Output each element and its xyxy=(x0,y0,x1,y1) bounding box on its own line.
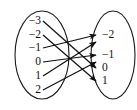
diagram-canvas: −3 −2 −1 0 1 2 −2 −1 0 1 xyxy=(0,0,137,110)
range-labels: −2 −1 0 1 xyxy=(102,28,114,86)
range-item-2: 0 xyxy=(102,61,108,73)
range-item-0: −2 xyxy=(102,28,114,40)
domain-item-4: 1 xyxy=(35,69,41,81)
edge-2-to-neg1 xyxy=(43,62,96,90)
range-item-3: 1 xyxy=(102,74,108,86)
domain-labels: −3 −2 −1 0 1 2 xyxy=(29,14,42,95)
domain-item-2: −1 xyxy=(29,41,41,53)
domain-item-0: −3 xyxy=(29,14,41,26)
domain-item-1: −2 xyxy=(29,28,41,40)
range-item-1: −1 xyxy=(102,48,114,60)
domain-item-3: 0 xyxy=(35,55,41,67)
domain-oval xyxy=(15,11,69,99)
mapping-diagram-figure: −3 −2 −1 0 1 2 −2 −1 0 1 xyxy=(0,0,137,110)
edge-1-to-neg1 xyxy=(43,42,96,76)
domain-item-5: 2 xyxy=(35,83,41,95)
